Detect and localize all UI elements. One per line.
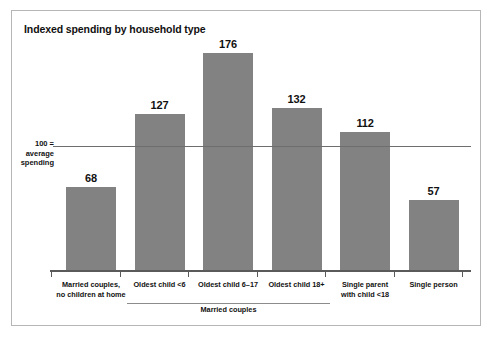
bar-value-label: 68 (57, 172, 125, 184)
axis-tick (257, 271, 258, 277)
x-axis-line (50, 270, 471, 272)
group-bracket-label: Married couples (127, 305, 330, 314)
axis-tick (188, 271, 189, 277)
bar[interactable] (66, 187, 116, 271)
reference-line-100 (53, 146, 471, 147)
bar[interactable] (272, 108, 322, 271)
axis-tick (51, 271, 52, 277)
category-label-line: with child <18 (322, 290, 408, 300)
bar-value-label: 127 (126, 99, 194, 111)
bar-value-label: 112 (331, 117, 399, 129)
chart-figure: Indexed spending by household type 68127… (0, 0, 494, 338)
bar-value-label: 176 (194, 38, 262, 50)
axis-tick (462, 271, 463, 277)
category-label: Single person (391, 280, 477, 290)
bar[interactable] (203, 53, 253, 271)
bar[interactable] (135, 114, 185, 271)
category-label-line: Single person (391, 280, 477, 290)
axis-tick (120, 271, 121, 277)
reference-line-label: 100 = average spending (16, 139, 54, 168)
bar[interactable] (340, 132, 390, 271)
reference-label-line-1: 100 = (16, 139, 54, 149)
reference-label-line-2: average (16, 149, 54, 159)
axis-tick (325, 271, 326, 277)
bar-value-label: 132 (263, 93, 331, 105)
bar-value-label: 57 (400, 185, 468, 197)
reference-label-line-3: spending (16, 158, 54, 168)
group-bracket-line (127, 303, 330, 304)
category-label-line: no children at home (48, 290, 134, 300)
bar[interactable] (409, 200, 459, 271)
axis-tick (394, 271, 395, 277)
